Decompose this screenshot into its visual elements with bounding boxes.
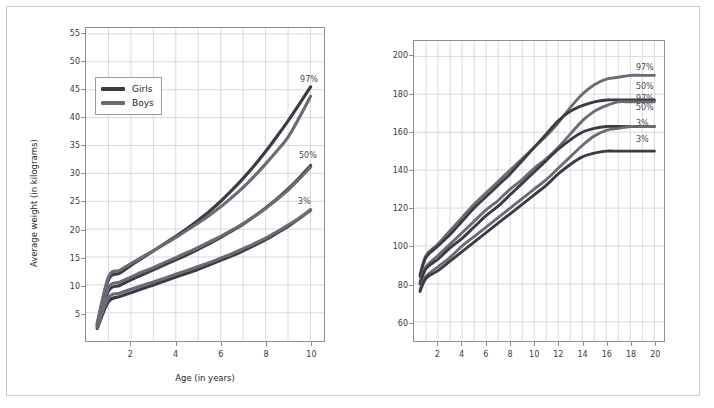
x-tick-label: 4 [459,350,464,359]
percentile-label: 3% [298,197,311,206]
x-tick-label: 10 [306,350,316,359]
y-tick-mark [409,55,413,56]
y-tick-label: 20 [57,225,80,234]
left-chart-y-axis-label: Average weight (in kilograms) [29,139,39,267]
boys-line-swatch-icon [101,101,125,105]
y-tick-mark [409,323,413,324]
y-tick-mark [81,173,85,174]
y-tick-mark [81,286,85,287]
y-tick-label: 55 [57,28,80,37]
x-tick-mark [655,342,656,346]
weight-for-age-chart-panel: Average weight (in kilograms) Age (in ye… [7,7,359,397]
percentile-label: 50% [636,81,654,90]
y-tick-mark [409,94,413,95]
y-tick-mark [81,33,85,34]
x-tick-mark [486,342,487,346]
y-tick-label: 120 [385,204,408,213]
x-tick-mark [176,342,177,346]
y-tick-label: 80 [385,280,408,289]
x-tick-mark [130,342,131,346]
y-tick-mark [409,246,413,247]
y-tick-label: 180 [385,89,408,98]
x-tick-mark [461,342,462,346]
right-chart-curves [414,41,664,341]
legend-row-boys: Boys [101,96,154,110]
percentile-label: 3% [636,135,649,144]
percentile-label: 50% [636,102,654,111]
y-tick-label: 10 [57,281,80,290]
percentile-label: 97% [300,74,318,83]
x-tick-mark [437,342,438,346]
right-chart-plot-area [413,40,665,342]
y-tick-mark [409,285,413,286]
y-tick-label: 5 [57,309,80,318]
legend-label-boys: Boys [132,99,154,108]
y-tick-label: 140 [385,165,408,174]
y-tick-mark [81,61,85,62]
x-tick-mark [266,342,267,346]
x-tick-mark [631,342,632,346]
y-tick-label: 15 [57,253,80,262]
x-tick-mark [558,342,559,346]
y-tick-label: 50 [57,56,80,65]
y-tick-mark [81,314,85,315]
x-tick-label: 6 [218,350,223,359]
growth-charts-figure: Average weight (in kilograms) Age (in ye… [6,6,700,396]
y-tick-label: 100 [385,242,408,251]
y-tick-mark [81,258,85,259]
girls-line-swatch-icon [101,87,125,91]
x-tick-mark [311,342,312,346]
x-tick-label: 2 [435,350,440,359]
x-tick-label: 12 [553,350,563,359]
x-tick-mark [221,342,222,346]
y-tick-mark [81,89,85,90]
x-tick-label: 2 [128,350,133,359]
x-tick-label: 16 [602,350,612,359]
y-tick-mark [81,145,85,146]
legend-row-girls: Girls [101,82,154,96]
left-chart-curves [86,28,324,341]
y-tick-mark [409,170,413,171]
x-tick-label: 20 [650,350,660,359]
y-tick-mark [81,201,85,202]
y-tick-mark [81,230,85,231]
x-tick-mark [607,342,608,346]
y-tick-label: 160 [385,127,408,136]
y-tick-label: 25 [57,197,80,206]
left-chart-x-axis-label: Age (in years) [85,373,325,383]
x-tick-mark [583,342,584,346]
y-tick-label: 200 [385,51,408,60]
x-tick-label: 6 [483,350,488,359]
y-tick-label: 30 [57,169,80,178]
x-tick-label: 8 [507,350,512,359]
y-tick-label: 60 [385,318,408,327]
x-tick-label: 8 [264,350,269,359]
percentile-label: 97% [636,62,654,71]
y-tick-mark [409,208,413,209]
y-tick-mark [81,117,85,118]
y-tick-label: 40 [57,113,80,122]
y-tick-label: 35 [57,141,80,150]
y-tick-label: 45 [57,84,80,93]
x-tick-mark [510,342,511,346]
x-tick-mark [534,342,535,346]
x-tick-label: 4 [173,350,178,359]
left-chart-legend: Girls Boys [95,77,162,115]
left-chart-plot-area [85,27,325,342]
legend-label-girls: Girls [132,85,152,94]
percentile-label: 3% [636,119,649,128]
x-tick-label: 14 [578,350,588,359]
height-for-age-chart-panel: Average length/height (in centimetres) A… [359,7,701,397]
x-tick-label: 18 [626,350,636,359]
percentile-label: 50% [299,151,317,160]
x-tick-label: 10 [529,350,539,359]
y-tick-mark [409,132,413,133]
